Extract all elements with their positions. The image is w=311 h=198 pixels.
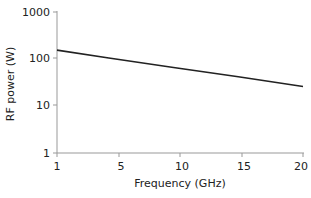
- y-tick-label: 1: [43, 147, 50, 160]
- y-tick-label: 100: [29, 52, 50, 65]
- x-tick-label: 15: [237, 160, 251, 173]
- chart: 1000 100 10 1 1 5 10 15 20 Frequency (GH…: [0, 0, 311, 198]
- y-tick-label: 10: [36, 99, 50, 112]
- data-line: [57, 50, 303, 86]
- y-tick-label: 1000: [22, 6, 50, 19]
- x-tick-label: 10: [175, 160, 189, 173]
- x-tick-label: 20: [294, 160, 308, 173]
- y-axis-label: RF power (W): [4, 47, 17, 121]
- x-tick-label: 5: [118, 160, 125, 173]
- x-ticks: [57, 153, 303, 157]
- x-tick-label: 1: [54, 160, 61, 173]
- x-axis-label: Frequency (GHz): [134, 177, 225, 190]
- y-ticks: [53, 12, 57, 153]
